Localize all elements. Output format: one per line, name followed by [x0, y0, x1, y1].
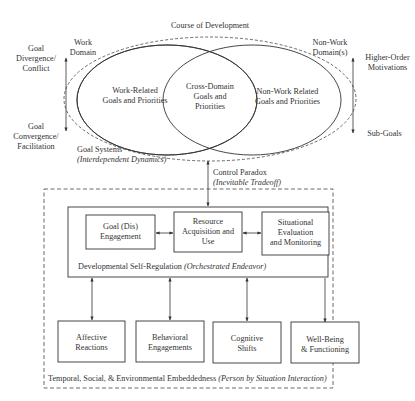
convergence-line2: Convergence/ [12, 132, 60, 142]
divergence-line3: Conflict [12, 64, 60, 74]
higher-order-line2: Motivations [360, 63, 415, 73]
behavioral-line2: Engagements [136, 343, 204, 353]
embeddedness-caption-italic: (Person by Situation Interaction) [218, 374, 326, 383]
work-goals-line1: Work-Related [95, 86, 175, 96]
nonwork-domain-label-line1: Non-Work [310, 38, 350, 48]
nonwork-related-goals: Non-Work Related Goals and Priorities [245, 87, 330, 107]
goal-engagement-line1: Goal (Dis) [86, 222, 155, 232]
cross-domain-line1: Cross-Domain [175, 82, 245, 92]
self-regulation-caption-italic: (Orchestrated Endeavor) [184, 262, 266, 271]
affective-label: Affective Reactions [58, 333, 125, 353]
situational-line1: Situational [262, 218, 329, 228]
situational-line2: Evaluation [262, 228, 329, 238]
divergence-line1: Goal [12, 44, 60, 54]
work-domain-label-line2: Domain [68, 48, 98, 58]
self-regulation-caption-text: Developmental Self-Regulation [78, 262, 182, 271]
work-domain-label: Work Domain [68, 38, 98, 58]
nonwork-goals-line2: Goals and Priorities [245, 97, 330, 107]
cross-domain-goals: Cross-Domain Goals and Priorities [175, 82, 245, 112]
embeddedness-caption: Temporal, Social, & Environmental Embedd… [48, 374, 327, 384]
self-regulation-caption: Developmental Self-Regulation (Orchestra… [78, 262, 266, 272]
cognitive-line1: Cognitive [213, 334, 281, 344]
wellbeing-line1: Well-Being [291, 335, 359, 345]
resource-line2: Acquisition and [174, 227, 242, 237]
goal-systems-line2: (Interdependent Dynamics) [77, 155, 167, 165]
resource-line1: Resource [174, 217, 242, 227]
wellbeing-line2: & Functioning [291, 345, 359, 355]
work-related-goals: Work-Related Goals and Priorities [95, 86, 175, 106]
sub-goals-label: Sub-Goals [362, 129, 407, 139]
nonwork-domain-label-line2: Domain(s) [310, 48, 350, 58]
work-domain-label-line1: Work [68, 38, 98, 48]
higher-order-motivations-label: Higher-Order Motivations [360, 53, 415, 73]
goal-engagement-line2: Engagement [86, 232, 155, 242]
nonwork-goals-line1: Non-Work Related [245, 87, 330, 97]
nonwork-domain-label: Non-Work Domain(s) [310, 38, 350, 58]
divergence-line2: Divergence/ [12, 54, 60, 64]
situational-label: Situational Evaluation and Monitoring [262, 218, 329, 248]
embeddedness-caption-text: Temporal, Social, & Environmental Embedd… [48, 374, 216, 383]
behavioral-label: Behavioral Engagements [136, 333, 204, 353]
goal-convergence-label: Goal Convergence/ Facilitation [12, 122, 60, 152]
course-of-development-label: Course of Development [160, 21, 260, 31]
goal-engagement-label: Goal (Dis) Engagement [86, 222, 155, 242]
work-goals-line2: Goals and Priorities [95, 96, 175, 106]
cross-domain-line2: Goals and [175, 92, 245, 102]
resource-line3: Use [174, 237, 242, 247]
cross-domain-line3: Priorities [175, 102, 245, 112]
goal-divergence-label: Goal Divergence/ Conflict [12, 44, 60, 74]
goal-systems-label: Goal Systems (Interdependent Dynamics) [77, 145, 167, 165]
wellbeing-label: Well-Being & Functioning [291, 335, 359, 355]
convergence-line1: Goal [12, 122, 60, 132]
cognitive-line2: Shifts [213, 344, 281, 354]
higher-order-line1: Higher-Order [360, 53, 415, 63]
affective-line2: Reactions [58, 343, 125, 353]
control-paradox-line2: (Inevitable Tradeoff) [213, 178, 281, 188]
goal-systems-line1: Goal Systems [77, 145, 167, 155]
convergence-line3: Facilitation [12, 142, 60, 152]
affective-line1: Affective [58, 333, 125, 343]
resource-label: Resource Acquisition and Use [174, 217, 242, 247]
behavioral-line1: Behavioral [136, 333, 204, 343]
control-paradox-line1: Control Paradox [213, 168, 281, 178]
cognitive-label: Cognitive Shifts [213, 334, 281, 354]
situational-line3: and Monitoring [262, 238, 329, 248]
control-paradox-label: Control Paradox (Inevitable Tradeoff) [213, 168, 281, 188]
